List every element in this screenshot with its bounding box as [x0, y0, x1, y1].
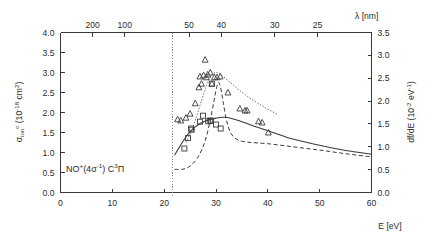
- data-point-triangle: [192, 100, 198, 106]
- species-annotation: NO+(4σ-1) C3Π: [66, 162, 124, 174]
- data-point-square: [201, 113, 206, 118]
- solid-curve: [175, 117, 372, 155]
- y-tick-label: 2.5: [43, 88, 55, 98]
- y-tick-label: 3.0: [43, 68, 55, 78]
- x-tick-label: 60: [367, 198, 377, 208]
- dotted-curve: [186, 72, 277, 142]
- data-point-triangle: [187, 111, 193, 117]
- y-axis-title: σionc (10-18 cm2): [13, 82, 26, 143]
- figure-panel: 20010050403025 0102030405060 0.00.51.01.…: [0, 0, 428, 237]
- x-tick-label: 20: [159, 198, 169, 208]
- data-point-triangle: [202, 57, 208, 63]
- top-tick-label: 25: [313, 20, 323, 30]
- top-wavelength-axis: 20010050403025: [85, 20, 322, 37]
- x-tick-label: 50: [315, 198, 325, 208]
- top-tick-label: 200: [85, 20, 100, 30]
- y2-tick-label: 0.0: [378, 188, 390, 198]
- data-point-triangle: [225, 89, 231, 95]
- data-point-square: [182, 146, 187, 151]
- bottom-energy-axis: 0102030405060: [58, 189, 376, 208]
- dfde-main: df/dE: [406, 123, 416, 143]
- y-tick-label: 1.5: [43, 128, 55, 138]
- data-point-triangle: [199, 81, 205, 87]
- data-point-triangle: [237, 105, 243, 111]
- x-tick-label: 30: [211, 198, 221, 208]
- y2-tick-label: 3.0: [378, 50, 390, 60]
- y2-tick-label: 2.5: [378, 73, 390, 83]
- y-tick-label: 0.0: [43, 188, 55, 198]
- y2-axis-title: df/dE (10-2 eV-1): [405, 81, 416, 143]
- top-axis-title: λ [nm]: [355, 11, 378, 21]
- y2-tick-label: 1.0: [378, 142, 390, 152]
- svg-text:df/dE (10-2 eV-1): df/dE (10-2 eV-1): [405, 81, 416, 143]
- right-dfde-axis: 0.00.51.01.52.02.53.03.5: [368, 28, 390, 198]
- y-tick-label: 3.5: [43, 48, 55, 58]
- y2-tick-label: 3.5: [378, 28, 390, 38]
- y2-tick-label: 1.5: [378, 119, 390, 129]
- left-cross-section-axis: 0.00.51.01.52.02.53.03.54.0: [43, 28, 65, 198]
- y-tick-label: 0.5: [43, 168, 55, 178]
- y2-tick-label: 2.0: [378, 96, 390, 106]
- x-tick-label: 40: [263, 198, 273, 208]
- top-tick-label: 50: [184, 20, 194, 30]
- dashed-curve: [175, 83, 372, 170]
- cross-section-chart: 20010050403025 0102030405060 0.00.51.01.…: [0, 0, 428, 237]
- y-tick-label: 2.0: [43, 108, 55, 118]
- y-tick-label: 4.0: [43, 28, 55, 38]
- top-tick-label: 30: [270, 20, 280, 30]
- top-tick-label: 40: [216, 20, 226, 30]
- top-tick-label: 100: [118, 20, 133, 30]
- x-tick-label: 0: [58, 198, 63, 208]
- y2-tick-label: 0.5: [378, 165, 390, 175]
- svg-text:σionc (10-18 cm2): σionc (10-18 cm2): [13, 82, 26, 143]
- x-tick-label: 10: [108, 198, 118, 208]
- y-tick-label: 1.0: [43, 148, 55, 158]
- model-curves: [175, 72, 372, 169]
- x-axis-title: E [eV]: [378, 221, 401, 231]
